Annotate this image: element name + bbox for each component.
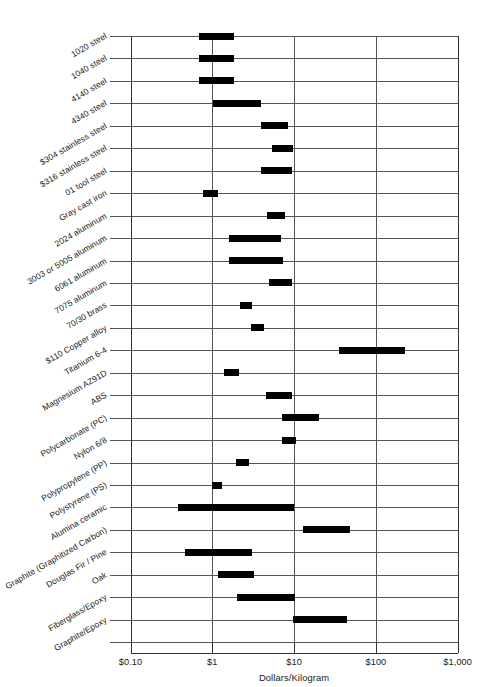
x-tick-label: $0.10 <box>119 657 143 667</box>
x-tick-label: $1 <box>207 657 217 667</box>
x-tick-label: $1,000 <box>443 657 472 667</box>
x-axis-tick-mark <box>212 642 213 653</box>
range-bar <box>293 616 347 623</box>
row-gridline <box>110 642 458 643</box>
x-tick-label: $100 <box>365 657 386 667</box>
x-axis-line <box>131 653 458 654</box>
x-axis-tick-mark <box>294 642 295 653</box>
x-axis-tick-mark <box>458 642 459 653</box>
row-gridline <box>110 620 458 621</box>
x-axis-title: Dollars/Kilogram <box>259 672 329 683</box>
x-axis-tick-mark <box>376 642 377 653</box>
x-axis-tick-mark <box>131 642 132 653</box>
x-tick-label: $10 <box>286 657 302 667</box>
